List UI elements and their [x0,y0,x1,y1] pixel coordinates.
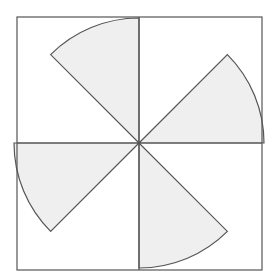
sector-right [139,55,264,143]
pinwheel-diagram [0,0,266,276]
sector-bottom [139,143,227,268]
sector-top [51,18,139,143]
sector-left [14,143,139,231]
